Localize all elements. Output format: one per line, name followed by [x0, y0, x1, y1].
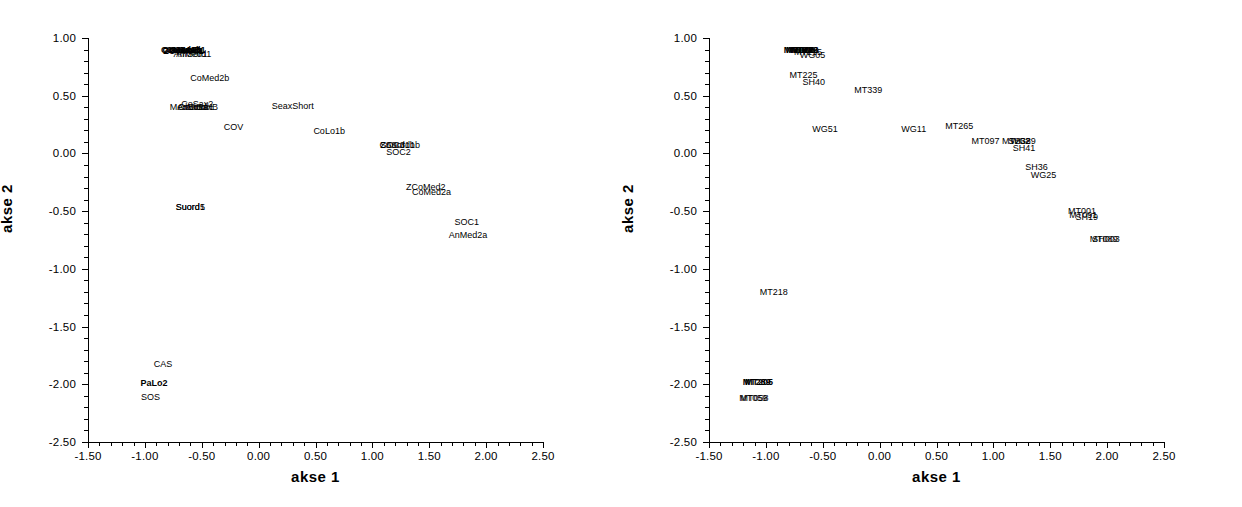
y-tick-major	[82, 384, 88, 385]
x-tick-major	[766, 442, 767, 448]
x-tick-minor	[732, 442, 733, 446]
x-tick-label: 2.00	[1096, 450, 1119, 462]
x-tick-minor	[134, 442, 135, 446]
y-tick-minor	[705, 350, 709, 351]
y-tick-minor	[705, 142, 709, 143]
x-axis-title-right: akse 1	[709, 468, 1164, 485]
data-point-label: SH003	[1092, 234, 1120, 243]
y-tick-minor	[84, 188, 88, 189]
x-tick-minor	[959, 442, 960, 446]
x-tick-minor	[156, 442, 157, 446]
x-tick-minor	[925, 442, 926, 446]
data-point-label: AnSaxB	[185, 103, 218, 112]
data-point-label: MT097	[971, 136, 999, 145]
y-tick-minor	[84, 396, 88, 397]
x-tick-minor	[1130, 442, 1131, 446]
y-tick-minor	[84, 373, 88, 374]
data-point-label: CoLo1b	[313, 127, 345, 136]
data-point-label: MT265	[945, 121, 973, 130]
y-tick-minor	[705, 361, 709, 362]
x-tick-minor	[122, 442, 123, 446]
data-point-label: SOS	[141, 392, 160, 401]
x-tick-major	[316, 442, 317, 448]
y-tick-label: -2.50	[0, 436, 76, 448]
data-point-label: MT205	[745, 377, 773, 386]
x-tick-major	[145, 442, 146, 448]
x-tick-minor	[1119, 442, 1120, 446]
x-tick-label: -1.00	[131, 450, 158, 462]
x-tick-minor	[720, 442, 721, 446]
data-point-label: SOC1	[455, 217, 480, 226]
y-tick-label: 0.50	[621, 90, 697, 102]
y-tick-minor	[705, 257, 709, 258]
y-tick-major	[703, 327, 709, 328]
x-tick-minor	[1084, 442, 1085, 446]
y-tick-minor	[84, 361, 88, 362]
y-tick-major	[703, 384, 709, 385]
x-tick-minor	[902, 442, 903, 446]
y-tick-minor	[705, 407, 709, 408]
y-tick-label: -2.00	[621, 378, 697, 390]
x-tick-minor	[846, 442, 847, 446]
x-tick-major	[993, 442, 994, 448]
x-tick-label: -1.00	[752, 450, 779, 462]
x-tick-minor	[293, 442, 294, 446]
x-tick-minor	[1016, 442, 1017, 446]
x-tick-minor	[868, 442, 869, 446]
y-tick-minor	[705, 419, 709, 420]
x-tick-minor	[777, 442, 778, 446]
y-tick-label: 0.00	[621, 147, 697, 159]
y-tick-minor	[84, 234, 88, 235]
x-tick-major	[486, 442, 487, 448]
y-tick-minor	[705, 50, 709, 51]
y-tick-label: 0.50	[0, 90, 76, 102]
y-tick-label: 0.00	[0, 147, 76, 159]
data-point-label: WG51	[812, 125, 838, 134]
y-tick-major	[82, 96, 88, 97]
y-tick-minor	[84, 61, 88, 62]
data-point-label: SOC2	[386, 148, 411, 157]
y-tick-minor	[84, 338, 88, 339]
y-tick-label: -2.50	[621, 436, 697, 448]
y-tick-minor	[705, 188, 709, 189]
data-point-label: PaLo2	[140, 379, 167, 388]
y-tick-minor	[705, 430, 709, 431]
x-tick-minor	[498, 442, 499, 446]
y-tick-label: -1.00	[621, 263, 697, 275]
scatter-panel-right: MT091MT060WG06MT223SH39MT215WG05MT225SH4…	[621, 0, 1242, 507]
x-tick-major	[709, 442, 710, 448]
data-point-label: SH40	[802, 77, 825, 86]
x-tick-major	[1050, 442, 1051, 448]
x-tick-minor	[914, 442, 915, 446]
y-tick-minor	[84, 292, 88, 293]
y-tick-label: 1.00	[0, 32, 76, 44]
y-tick-label: -0.50	[621, 205, 697, 217]
x-tick-minor	[99, 442, 100, 446]
x-tick-minor	[395, 442, 396, 446]
x-tick-label: 0.50	[925, 450, 948, 462]
x-tick-minor	[327, 442, 328, 446]
y-tick-major	[82, 153, 88, 154]
x-tick-label: 2.00	[475, 450, 498, 462]
y-tick-minor	[84, 200, 88, 201]
y-tick-minor	[84, 419, 88, 420]
data-point-label: MT339	[854, 85, 882, 94]
x-tick-major	[88, 442, 89, 448]
y-tick-minor	[84, 130, 88, 131]
x-tick-major	[823, 442, 824, 448]
scatter-panel-left: CoMed1bCoSaxBCoLo1aAnMed1CoSax1ZCoMed1An…	[0, 0, 621, 507]
x-tick-minor	[475, 442, 476, 446]
y-tick-major	[82, 269, 88, 270]
y-tick-minor	[84, 430, 88, 431]
y-tick-label: -1.00	[0, 263, 76, 275]
y-tick-minor	[84, 257, 88, 258]
data-point-label: CoMed2a	[412, 187, 451, 196]
y-tick-minor	[705, 292, 709, 293]
x-tick-major	[259, 442, 260, 448]
x-tick-minor	[463, 442, 464, 446]
y-tick-label: -2.00	[0, 378, 76, 390]
x-tick-major	[543, 442, 544, 448]
x-tick-major	[202, 442, 203, 448]
y-tick-minor	[705, 200, 709, 201]
y-tick-label: -1.50	[0, 321, 76, 333]
